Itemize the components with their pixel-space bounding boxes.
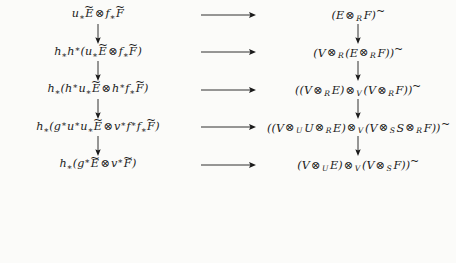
- diagram-node-r4c1: h∗(g∗u∗u∗E⊗v∗f∗f∗F): [36, 120, 160, 135]
- diagram-node-r5c1: h∗(g∗E⊗v∗F): [60, 157, 137, 172]
- diagram-gap: [228, 61, 229, 81]
- commutative-diagram: u∗E⊗f∗F (E⊗RF)~ h∗h∗(u∗E⊗: [0, 0, 456, 263]
- diagram-arrow-v-col2-row3: [352, 99, 364, 119]
- down-arrow-icon: [352, 136, 364, 156]
- diagram-node-r3c1: h∗(h∗u∗E⊗h∗f∗F): [48, 82, 149, 97]
- diagram-node-r2c1: h∗h∗(u∗E⊗f∗F): [54, 45, 142, 60]
- diagram-arrow-v-col2-row2: [352, 61, 364, 81]
- diagram-grid: u∗E⊗f∗F (E⊗RF)~ h∗h∗(u∗E⊗: [0, 0, 456, 174]
- diagram-gap: [228, 136, 229, 156]
- diagram-arrow-h-row4: [199, 121, 257, 133]
- right-arrow-icon: [199, 84, 257, 96]
- diagram-arrow-h-row5: [199, 159, 257, 171]
- down-arrow-icon: [352, 24, 364, 44]
- down-arrow-icon: [352, 99, 364, 119]
- diagram-arrow-h-row3: [199, 84, 257, 96]
- diagram-arrow-v-col2-row4: [352, 136, 364, 156]
- right-arrow-icon: [199, 121, 257, 133]
- diagram-arrow-v-col2-row1: [352, 24, 364, 44]
- diagram-gap: [228, 99, 229, 119]
- diagram-node-r1c1: u∗E⊗f∗F: [72, 8, 124, 22]
- right-arrow-icon: [199, 46, 257, 58]
- diagram-node-r1c2: (E⊗RF)~: [332, 6, 385, 24]
- diagram-node-r4c2: ((V⊗UU⊗RE)⊗V(V⊗SS⊗RF))~: [267, 119, 449, 137]
- diagram-arrow-h-row2: [199, 46, 257, 58]
- diagram-node-r5c2: (V⊗UE)⊗V(V⊗SF))~: [297, 156, 418, 174]
- right-arrow-icon: [199, 159, 257, 171]
- diagram-arrow-h-row1: [199, 9, 257, 21]
- diagram-gap: [228, 24, 229, 44]
- diagram-node-r3c2: ((V⊗RE)⊗V(V⊗RF))~: [295, 81, 421, 99]
- right-arrow-icon: [199, 9, 257, 21]
- diagram-node-r2c2: (V⊗R(E⊗RF))~: [313, 44, 403, 62]
- down-arrow-icon: [352, 61, 364, 81]
